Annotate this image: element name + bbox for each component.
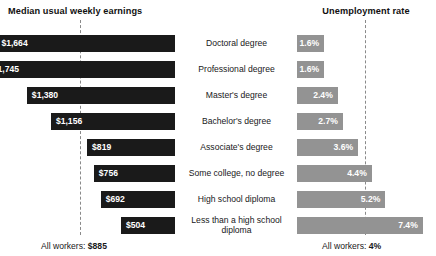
unemployment-bar-value: 4.4% bbox=[347, 169, 367, 178]
left-footer-prefix: All workers: bbox=[41, 241, 88, 251]
unemployment-bar: 2.4% bbox=[297, 87, 338, 104]
earnings-bar: $1,156 bbox=[51, 113, 175, 130]
earnings-bar: $819 bbox=[87, 139, 175, 156]
chart-container: Median usual weekly earnings Unemploymen… bbox=[0, 0, 436, 256]
chart-row: $692High school diploma5.2% bbox=[0, 186, 436, 212]
chart-row: $504Less than a high school diploma7.4% bbox=[0, 212, 436, 238]
earnings-bar-value: $504 bbox=[126, 221, 145, 230]
right-footer-value: 4% bbox=[369, 241, 381, 251]
earnings-bar: $1,380 bbox=[27, 87, 175, 104]
category-label: Associate's degree bbox=[178, 134, 295, 160]
unemployment-bar-value: 7.4% bbox=[398, 221, 418, 230]
earnings-bar-value: $756 bbox=[99, 169, 118, 178]
earnings-bar: $692 bbox=[101, 191, 175, 208]
chart-row: $756Some college, no degree4.4% bbox=[0, 160, 436, 186]
chart-row: $1,156Bachelor's degree2.7% bbox=[0, 108, 436, 134]
unemployment-bar: 3.6% bbox=[297, 139, 358, 156]
earnings-bar: $1,745 bbox=[0, 61, 175, 78]
chart-row: $819Associate's degree3.6% bbox=[0, 134, 436, 160]
unemployment-bar-value: 2.4% bbox=[313, 91, 333, 100]
category-label: Bachelor's degree bbox=[178, 108, 295, 134]
category-label: Doctoral degree bbox=[178, 30, 295, 56]
earnings-bar-value: $819 bbox=[92, 143, 111, 152]
right-panel-title: Unemployment rate bbox=[300, 6, 432, 16]
earnings-bar-value: $692 bbox=[106, 195, 125, 204]
earnings-bar: $1,664 bbox=[0, 35, 175, 52]
left-footer-note: All workers: $885 bbox=[41, 241, 107, 251]
category-label: Less than a high school diploma bbox=[178, 212, 295, 238]
unemployment-bar: 7.4% bbox=[297, 217, 423, 234]
unemployment-bar-value: 5.2% bbox=[361, 195, 381, 204]
right-footer-note: All workers: 4% bbox=[322, 241, 381, 251]
left-panel-title: Median usual weekly earnings bbox=[8, 6, 142, 16]
chart-row: $1,380Master's degree2.4% bbox=[0, 82, 436, 108]
earnings-bar-value: $1,664 bbox=[1, 39, 27, 48]
category-label: Some college, no degree bbox=[178, 160, 295, 186]
earnings-bar: $756 bbox=[94, 165, 175, 182]
left-footer-value: $885 bbox=[88, 241, 107, 251]
unemployment-bar: 1.6% bbox=[297, 61, 324, 78]
earnings-bar-value: $1,156 bbox=[56, 117, 82, 126]
earnings-bar-value: $1,380 bbox=[32, 91, 58, 100]
unemployment-bar: 2.7% bbox=[297, 113, 343, 130]
category-label: High school diploma bbox=[178, 186, 295, 212]
right-footer-prefix: All workers: bbox=[322, 241, 369, 251]
unemployment-bar-value: 2.7% bbox=[318, 117, 338, 126]
chart-row: $1,664Doctoral degree1.6% bbox=[0, 30, 436, 56]
category-label: Professional degree bbox=[178, 56, 295, 82]
unemployment-bar-value: 1.6% bbox=[300, 39, 320, 48]
unemployment-bar-value: 1.6% bbox=[300, 65, 320, 74]
unemployment-bar: 5.2% bbox=[297, 191, 385, 208]
chart-row: $1,745Professional degree1.6% bbox=[0, 56, 436, 82]
earnings-bar: $504 bbox=[121, 217, 175, 234]
category-label: Master's degree bbox=[178, 82, 295, 108]
unemployment-bar: 1.6% bbox=[297, 35, 324, 52]
earnings-bar-value: $1,745 bbox=[0, 65, 19, 74]
unemployment-bar: 4.4% bbox=[297, 165, 372, 182]
unemployment-bar-value: 3.6% bbox=[334, 143, 354, 152]
